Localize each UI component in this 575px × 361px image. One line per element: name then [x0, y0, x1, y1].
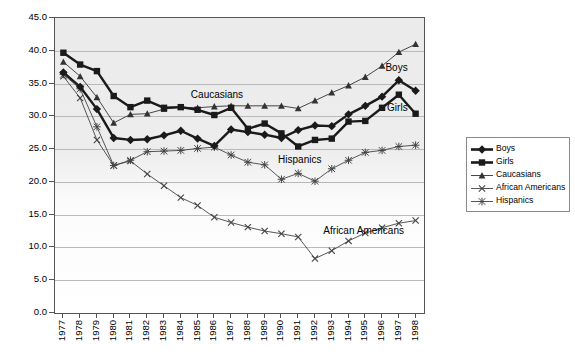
x-axis-tick-label: 1978	[74, 320, 84, 341]
data-point	[312, 137, 318, 143]
data-point	[294, 170, 302, 178]
legend-item-caucasians[interactable]: Caucasians	[470, 168, 565, 181]
x-axis-tick-label: 1997	[393, 320, 403, 341]
data-point	[312, 255, 318, 261]
y-axis: 0.05.010.015.020.025.030.035.040.045.0	[0, 0, 54, 331]
data-point	[194, 107, 200, 113]
data-point	[311, 177, 319, 185]
data-point	[228, 219, 234, 225]
data-point	[362, 74, 369, 80]
data-point	[395, 143, 403, 151]
x-axis-tick-label: 1979	[91, 320, 101, 341]
data-point	[228, 105, 234, 111]
data-point	[127, 156, 135, 164]
series-layer	[55, 18, 425, 314]
x-axis-tick-mark	[415, 314, 416, 318]
data-point	[211, 214, 217, 220]
data-point	[278, 130, 284, 136]
x-axis-tick-label: 1998	[410, 320, 420, 341]
x-axis-tick-label: 1988	[242, 320, 252, 341]
series-line	[63, 44, 415, 123]
y-axis-tick-label: 40.0	[29, 45, 48, 55]
data-point	[345, 82, 352, 88]
y-axis-tick-label: 10.0	[29, 242, 48, 252]
x-axis-tick-label: 1989	[259, 320, 269, 341]
legend-marker-icon	[470, 194, 494, 207]
data-point	[362, 149, 370, 157]
data-point	[177, 127, 185, 135]
x-axis-tick-label: 1986	[208, 320, 218, 341]
data-point	[412, 41, 419, 47]
data-point	[345, 238, 351, 244]
data-point	[395, 49, 402, 55]
x-axis-tick-label: 1992	[309, 320, 319, 341]
data-point	[94, 68, 100, 74]
legend-item-african-americans[interactable]: African Americans	[470, 181, 565, 194]
y-axis-tick-label: 30.0	[29, 111, 48, 121]
y-axis-tick-label: 45.0	[29, 12, 48, 22]
data-point	[161, 183, 167, 189]
data-point	[126, 136, 134, 144]
x-axis-tick-mark	[197, 314, 198, 318]
x-axis-tick-mark	[79, 314, 80, 318]
data-point	[111, 93, 117, 99]
legend-label: Hispanics	[496, 196, 533, 205]
legend-label: African Americans	[496, 183, 565, 192]
data-point	[178, 195, 184, 201]
data-point	[194, 145, 202, 153]
data-point	[245, 224, 251, 230]
x-axis-tick-mark	[381, 314, 382, 318]
series-label-girls: Girls	[387, 102, 408, 113]
series-caucasians	[60, 41, 419, 126]
x-axis-tick-label: 1983	[158, 320, 168, 341]
data-point	[362, 118, 368, 124]
x-axis-tick-mark	[280, 314, 281, 318]
data-point	[329, 135, 335, 141]
legend-marker-icon	[470, 168, 494, 181]
data-point	[110, 162, 118, 170]
series-label-caucasians: Caucasians	[191, 89, 243, 100]
y-axis-tick-label: 35.0	[29, 78, 48, 88]
data-point	[312, 97, 319, 103]
x-axis-tick-mark	[96, 314, 97, 318]
data-point	[94, 137, 100, 143]
x-axis-tick-mark	[180, 314, 181, 318]
y-axis-tick-label: 0.0	[34, 307, 47, 317]
x-axis-tick-label: 1981	[124, 320, 134, 341]
data-point	[144, 171, 150, 177]
x-axis-tick-mark	[364, 314, 365, 318]
x-axis-tick-mark	[163, 314, 164, 318]
legend-item-hispanics[interactable]: Hispanics	[470, 194, 565, 207]
data-point	[177, 147, 185, 155]
x-axis-tick-label: 1980	[108, 320, 118, 341]
data-point	[295, 143, 301, 149]
series-label-boys: Boys	[385, 62, 407, 73]
x-axis-tick-label: 1985	[192, 320, 202, 341]
legend-label: Girls	[496, 157, 514, 166]
data-point	[328, 165, 336, 173]
data-point	[60, 59, 67, 65]
y-axis-tick-label: 25.0	[29, 143, 48, 153]
x-axis-tick-label: 1995	[359, 320, 369, 341]
data-point	[329, 248, 335, 254]
y-axis-tick-label: 20.0	[29, 176, 48, 186]
legend-item-boys[interactable]: Boys	[470, 142, 565, 155]
data-point	[261, 161, 269, 169]
x-axis-tick-mark	[297, 314, 298, 318]
legend-item-girls[interactable]: Girls	[470, 155, 565, 168]
x-axis-tick-label: 1987	[225, 320, 235, 341]
data-point	[260, 130, 268, 138]
data-point	[278, 175, 286, 183]
x-axis-tick-mark	[314, 314, 315, 318]
x-axis-tick-label: 1984	[175, 320, 185, 341]
x-axis-tick-mark	[146, 314, 147, 318]
x-axis-tick-mark	[247, 314, 248, 318]
x-axis-tick-mark	[113, 314, 114, 318]
legend-label: Caucasians	[496, 170, 541, 179]
series-label-african-americans: African Americans	[323, 225, 404, 236]
x-axis-tick-label: 1991	[292, 320, 302, 341]
x-axis-tick-label: 1994	[343, 320, 353, 341]
data-point	[294, 126, 302, 134]
data-point	[261, 120, 267, 126]
data-point	[127, 104, 133, 110]
